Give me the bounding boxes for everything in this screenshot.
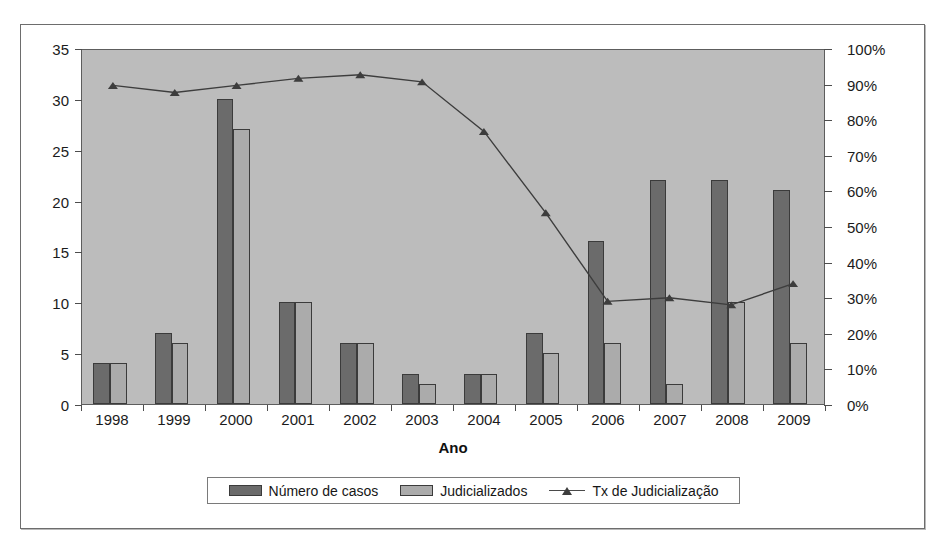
y-axis-right-tick-mark: [824, 49, 832, 50]
x-axis-tick-mark: [577, 405, 578, 411]
y-axis-left-tick-mark: [75, 151, 82, 152]
y-axis-left-tick-mark: [75, 252, 82, 253]
x-axis-tick-mark: [391, 405, 392, 411]
x-axis-labels: 1998199920002001200220032004200520062007…: [81, 411, 825, 437]
y-axis-right-tick-label: 40%: [847, 255, 877, 270]
y-axis-right-tick-mark: [824, 156, 832, 157]
y-axis-left-tick-label: 35: [52, 42, 69, 57]
legend-item-judicializados[interactable]: Judicializados: [400, 483, 527, 499]
x-axis-tick-label: 2005: [515, 411, 577, 437]
y-axis-left-tick-mark: [75, 202, 82, 203]
x-axis-tick-mark: [267, 405, 268, 411]
x-axis-tick-label: 2006: [577, 411, 639, 437]
x-axis-tick-mark: [81, 405, 82, 411]
y-axis-left: 35302520151050: [29, 49, 75, 405]
x-axis-tick-mark: [639, 405, 640, 411]
legend-line-triangle-icon: [549, 485, 585, 496]
line-tx-de-judicializacao: [113, 75, 793, 305]
legend-item-numero-de-casos[interactable]: Número de casos: [229, 483, 379, 499]
y-axis-left-tick-mark: [75, 100, 82, 101]
y-axis-right-tick-mark: [824, 191, 832, 192]
x-axis-tick-label: 2008: [701, 411, 763, 437]
x-axis-tick-mark: [825, 405, 826, 411]
y-axis-right-tick-mark: [824, 227, 832, 228]
y-axis-left-tick-label: 20: [52, 194, 69, 209]
x-axis-tick-mark: [763, 405, 764, 411]
legend-item-tx-de-judicializacao[interactable]: Tx de Judicialização: [549, 483, 718, 499]
x-axis-tick-mark: [205, 405, 206, 411]
legend-label: Número de casos: [269, 483, 379, 499]
y-axis-right: 100%90%80%70%60%50%40%30%20%10%0%: [833, 49, 893, 405]
y-axis-right-tick-label: 70%: [847, 148, 877, 163]
x-axis-tick-mark: [515, 405, 516, 411]
y-axis-right-tick-label: 20%: [847, 326, 877, 341]
plot-area: [81, 49, 825, 405]
y-axis-left-tick-label: 25: [52, 143, 69, 158]
x-axis-tick-label: 2009: [763, 411, 825, 437]
y-axis-right-tick-label: 30%: [847, 291, 877, 306]
chart-legend: Número de casos Judicializados Tx de Jud…: [207, 477, 740, 504]
y-axis-right-tick-mark: [824, 85, 832, 86]
y-axis-right-tick-label: 100%: [847, 42, 885, 57]
x-axis-tick-label: 2004: [453, 411, 515, 437]
x-axis-tick-mark: [701, 405, 702, 411]
x-axis-tick-label: 2001: [267, 411, 329, 437]
y-axis-right-tick-label: 60%: [847, 184, 877, 199]
x-axis-tick-mark: [453, 405, 454, 411]
x-axis-tick-label: 2003: [391, 411, 453, 437]
y-axis-right-tick-mark: [824, 263, 832, 264]
chart-frame: 35302520151050 100%90%80%70%60%50%40%30%…: [20, 24, 925, 529]
y-axis-right-tick-mark: [824, 298, 832, 299]
y-axis-right-tick-label: 90%: [847, 77, 877, 92]
line-marker-triangle-icon[interactable]: [541, 209, 551, 216]
y-axis-right-tick-label: 10%: [847, 362, 877, 377]
x-axis-tick-label: 2000: [205, 411, 267, 437]
y-axis-left-tick-label: 30: [52, 92, 69, 107]
y-axis-left-tick-label: 10: [52, 296, 69, 311]
x-axis-tick-label: 1999: [143, 411, 205, 437]
legend-label: Tx de Judicialização: [592, 483, 718, 499]
y-axis-right-tick-mark: [824, 369, 832, 370]
combo-chart: 35302520151050 100%90%80%70%60%50%40%30%…: [21, 25, 926, 530]
y-axis-right-tick-label: 50%: [847, 220, 877, 235]
x-axis-tick-mark: [329, 405, 330, 411]
x-axis-tick-label: 2002: [329, 411, 391, 437]
legend-label: Judicializados: [440, 483, 527, 499]
line-series-layer: [82, 50, 824, 404]
y-axis-left-tick-mark: [75, 354, 82, 355]
y-axis-left-tick-label: 0: [61, 398, 69, 413]
x-axis-tick-label: 2007: [639, 411, 701, 437]
line-marker-triangle-icon[interactable]: [788, 280, 798, 287]
y-axis-right-tick-mark: [824, 120, 832, 121]
y-axis-right-tick-label: 80%: [847, 113, 877, 128]
x-axis-tick-label: 1998: [81, 411, 143, 437]
legend-swatch-dark-icon: [229, 485, 262, 496]
y-axis-left-tick-mark: [75, 303, 82, 304]
legend-swatch-light-icon: [400, 485, 433, 496]
y-axis-left-tick-label: 5: [61, 347, 69, 362]
y-axis-right-tick-mark: [824, 334, 832, 335]
x-axis-title: Ano: [81, 439, 825, 456]
y-axis-left-tick-label: 15: [52, 245, 69, 260]
y-axis-right-tick-label: 0%: [847, 398, 869, 413]
y-axis-left-tick-mark: [75, 49, 82, 50]
x-axis-tick-mark: [143, 405, 144, 411]
